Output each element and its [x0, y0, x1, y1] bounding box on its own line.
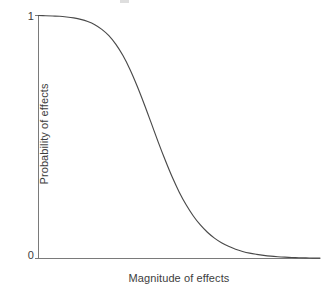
probability-curve [39, 16, 321, 259]
chart-figure: 1 0 Probability of effects Magnitude of … [0, 0, 328, 293]
y-axis-title: Probability of effects [38, 49, 50, 219]
y-axis-tick-label-bottom: 0 [22, 250, 34, 261]
x-axis-title: Magnitude of effects [38, 272, 320, 284]
y-axis-tick-label-top: 1 [22, 11, 34, 22]
